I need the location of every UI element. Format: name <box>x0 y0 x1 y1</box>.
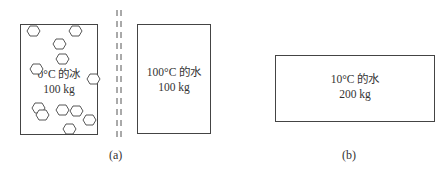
hot-water-temperature-text: 100°C 的水 <box>138 65 210 80</box>
caption-b: (b) <box>342 148 356 163</box>
mixed-water-temperature-text: 10°C 的水 <box>276 72 434 87</box>
hot-water-label: 100°C 的水 100 kg <box>138 65 210 95</box>
mixed-water-label: 10°C 的水 200 kg <box>276 72 434 102</box>
hot-water-container: 100°C 的水 100 kg <box>137 24 211 134</box>
hot-water-mass-text: 100 kg <box>138 80 210 95</box>
mixed-water-container: 10°C 的水 200 kg <box>275 55 435 122</box>
mixed-water-mass-text: 200 kg <box>276 87 434 102</box>
divider-dashed-lines <box>114 10 124 138</box>
caption-a: (a) <box>109 148 122 163</box>
